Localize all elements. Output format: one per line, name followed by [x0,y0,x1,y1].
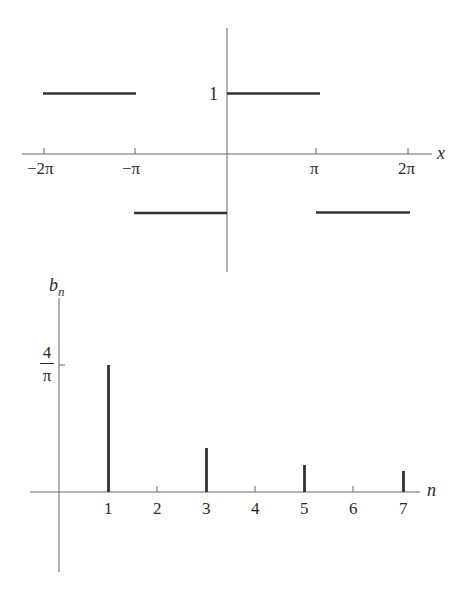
n-tick-label-6: 6 [349,500,358,517]
bn-label-sub: n [58,284,65,299]
fraction-denominator: π [40,367,54,384]
n-tick-label-5: 5 [300,500,309,517]
y-tick-label-1: 1 [209,85,218,103]
bn-label-main: b [49,275,58,295]
y-tick-label-4-over-pi: 4 π [40,344,54,384]
n-tick-label-2: 2 [153,500,162,517]
n-tick-label-1: 1 [104,500,113,517]
x-tick-label-neg2pi: −2π [27,160,54,177]
n-ticks [157,486,353,492]
coefficient-stems [109,365,404,492]
x-ticks [44,148,408,154]
x-tick-label-negpi: −π [122,160,140,177]
n-tick-label-7: 7 [399,500,408,517]
x-axis-label: x [437,144,445,162]
n-tick-label-4: 4 [251,500,260,517]
coefficient-chart [30,298,420,572]
x-tick-label-2pi: 2π [398,160,415,177]
square-wave-chart [22,28,432,272]
fraction-numerator: 4 [40,344,54,361]
fraction-bar [40,363,54,364]
n-tick-label-3: 3 [202,500,211,517]
x-tick-label-pi: π [310,160,319,177]
n-axis-label: n [427,481,436,499]
bn-axis-label: bn [49,276,65,298]
